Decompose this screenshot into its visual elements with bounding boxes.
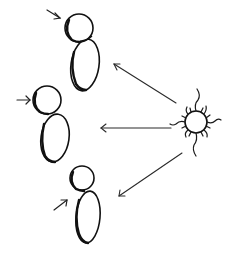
pointer-arrow-icon	[47, 10, 60, 19]
figure-bottom	[54, 166, 102, 244]
figure-middle	[17, 86, 72, 164]
sun-icon	[170, 89, 221, 156]
diagram-svg	[0, 0, 226, 257]
ray-bottom	[119, 153, 182, 196]
ray-top	[114, 64, 176, 103]
figure-body	[74, 190, 102, 244]
ray-middle	[101, 124, 171, 132]
pointer-arrow-icon	[54, 200, 67, 210]
figure-top	[47, 10, 102, 93]
diagram-canvas	[0, 0, 226, 257]
pointer-arrow-icon	[17, 96, 30, 104]
